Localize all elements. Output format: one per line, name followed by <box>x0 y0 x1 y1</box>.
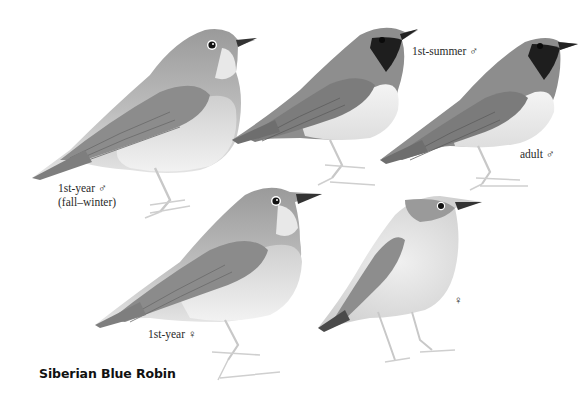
label-female: ♀ <box>454 293 463 307</box>
label-line-1: 1st-year ♂ <box>58 181 116 195</box>
label-1st-summer-male: 1st-summer ♂ <box>412 44 478 58</box>
label-adult-male: adult ♂ <box>520 147 555 161</box>
label-1st-year-female: 1st-year ♀ <box>148 327 197 341</box>
illustration-plate: 1st-year ♂ (fall–winter) 1st-summer ♂ ad… <box>0 0 584 408</box>
label-line-2: (fall–winter) <box>58 195 116 209</box>
plate-title: Siberian Blue Robin <box>39 366 176 381</box>
label-1st-year-male: 1st-year ♂ (fall–winter) <box>58 181 116 209</box>
